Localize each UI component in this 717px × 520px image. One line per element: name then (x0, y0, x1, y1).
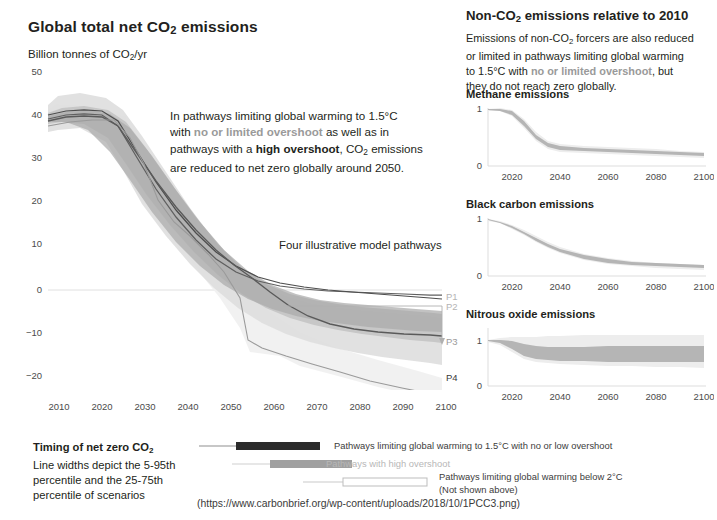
subplot-nitrous-oxide-svg: 1 0 2020 2040 2060 2080 2100 (466, 320, 714, 408)
four-illustrative-pathways-label: Four illustrative model pathways (279, 239, 442, 251)
main-y-tick-labels: 50 40 30 20 10 0 −10 −20 (26, 66, 42, 381)
svg-text:2090: 2090 (392, 401, 413, 412)
legend-swatches: Pathways limiting global warming to 1.5°… (195, 435, 715, 501)
page-title-suffix: emissions (177, 18, 258, 35)
page-title: Global total net CO2 emissions (28, 18, 258, 36)
svg-text:2100: 2100 (693, 281, 714, 292)
subplot-black-carbon: Black carbon emissions 1 0 2020 2040 206… (466, 198, 714, 302)
legend-desc-line2: percentile and the 25-75th (33, 473, 208, 488)
legend-desc-line1: Line widths depict the 5-95th (33, 458, 208, 473)
svg-text:2080: 2080 (645, 281, 666, 292)
legend-svg: Pathways limiting global warming to 1.5°… (195, 435, 715, 497)
legend-label-below-2c: Pathways limiting global warming below 2… (439, 471, 623, 482)
svg-text:2040: 2040 (549, 171, 570, 182)
subplot-nitrous-oxide-x-ticks: 2020 2040 2060 2080 2100 (501, 391, 714, 402)
subplot-nitrous-oxide-title: Nitrous oxide emissions (466, 308, 714, 320)
svg-text:2100: 2100 (693, 391, 714, 402)
subplot-nitrous-oxide: Nitrous oxide emissions 1 0 2020 2040 20… (466, 308, 714, 412)
svg-text:2020: 2020 (501, 391, 522, 402)
legend-entry-1-5c: Pathways limiting global warming to 1.5°… (199, 440, 613, 451)
svg-text:20: 20 (31, 195, 42, 206)
svg-text:0: 0 (37, 284, 42, 295)
source-caption: (https://www.carbonbrief.org/wp-content/… (0, 498, 717, 509)
svg-text:2040: 2040 (177, 401, 198, 412)
svg-text:40: 40 (31, 109, 42, 120)
black-carbon-core-band (488, 219, 704, 268)
svg-text:1: 1 (477, 213, 482, 224)
legend-sublabel-below-2c: (Not shown above) (439, 484, 518, 495)
main-x-tick-labels: 2010 2020 2030 2040 2050 2060 2070 2080 … (48, 401, 456, 412)
svg-text:2020: 2020 (501, 281, 522, 292)
svg-text:2060: 2060 (597, 281, 618, 292)
pathway-tag-p3: P3 (446, 336, 458, 347)
svg-text:2080: 2080 (645, 391, 666, 402)
intro-no-or-limited-overshoot: no or limited overshoot (531, 65, 652, 77)
right-panel-title: Non-CO2 emissions relative to 2010 (466, 8, 712, 27)
svg-text:0: 0 (477, 270, 482, 281)
svg-text:2060: 2060 (597, 171, 618, 182)
svg-text:30: 30 (31, 152, 42, 163)
svg-text:2100: 2100 (435, 401, 456, 412)
svg-text:2040: 2040 (549, 281, 570, 292)
svg-text:2070: 2070 (306, 401, 327, 412)
subplot-black-carbon-svg: 1 0 2020 2040 2060 2080 2100 (466, 210, 714, 298)
legend-heading: Timing of net zero CO2 (33, 440, 208, 458)
svg-text:1: 1 (477, 335, 482, 346)
svg-text:2080: 2080 (645, 171, 666, 182)
svg-text:2060: 2060 (597, 391, 618, 402)
subplot-methane-title: Methane emissions (466, 88, 714, 100)
methane-core-band (488, 109, 704, 156)
svg-text:2060: 2060 (263, 401, 284, 412)
svg-text:1: 1 (477, 103, 482, 114)
legend-entry-below-2c: Pathways limiting global warming below 2… (303, 471, 623, 495)
svg-text:2030: 2030 (134, 401, 155, 412)
svg-text:2010: 2010 (48, 401, 69, 412)
svg-text:−20: −20 (26, 370, 42, 381)
black-carbon-outer-band (488, 219, 704, 270)
pathway-tag-p4: P4 (446, 372, 458, 383)
right-panel-intro: Emissions of non-CO2 forcers are also re… (466, 31, 714, 93)
svg-text:2050: 2050 (220, 401, 241, 412)
legend-entry-high-overshoot: Pathways with high overshoot (232, 458, 450, 469)
svg-text:−10: −10 (26, 327, 42, 338)
legend-heading-block: Timing of net zero CO2 Line widths depic… (33, 440, 208, 502)
svg-text:50: 50 (31, 66, 42, 77)
svg-text:10: 10 (31, 238, 42, 249)
svg-text:2020: 2020 (501, 171, 522, 182)
svg-text:2080: 2080 (349, 401, 370, 412)
subplot-methane: Methane emissions 1 0 2020 2040 2060 208… (466, 88, 714, 192)
subplot-black-carbon-title: Black carbon emissions (466, 198, 714, 210)
annotation-high-overshoot: high overshoot (256, 142, 340, 155)
legend-label-1-5c: Pathways limiting global warming to 1.5°… (334, 440, 613, 451)
svg-text:0: 0 (477, 160, 482, 171)
page-title-text: Global total net CO (28, 18, 170, 35)
svg-text:2040: 2040 (549, 391, 570, 402)
annotation-no-or-limited-overshoot: no or limited overshoot (194, 125, 323, 138)
svg-text:2020: 2020 (91, 401, 112, 412)
main-chart-annotation: In pathways limiting global warming to 1… (170, 108, 450, 176)
subplot-methane-svg: 1 0 2020 2040 2060 2080 2100 (466, 100, 714, 188)
legend-label-high-overshoot: Pathways with high overshoot (326, 458, 450, 469)
subplot-methane-x-ticks: 2020 2040 2060 2080 2100 (501, 171, 714, 182)
pathway-tag-p2: P2 (446, 301, 458, 312)
pathway-tag-labels: P1 P2 P3 P4 (446, 291, 458, 383)
subplot-black-carbon-x-ticks: 2020 2040 2060 2080 2100 (501, 281, 714, 292)
svg-text:2100: 2100 (693, 171, 714, 182)
svg-text:0: 0 (477, 380, 482, 391)
